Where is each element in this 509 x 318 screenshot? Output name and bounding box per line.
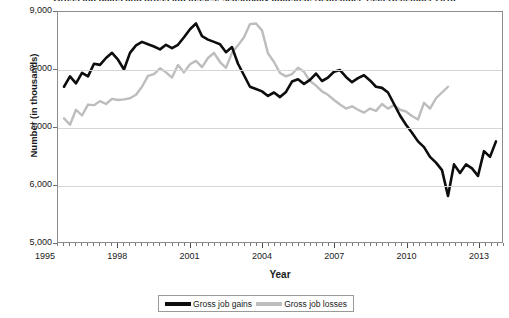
x-axis-major-tick xyxy=(334,243,335,248)
gridline xyxy=(58,186,502,187)
x-axis-minor-tick xyxy=(376,243,377,246)
x-axis-minor-tick xyxy=(346,243,347,246)
x-tick-label: 1995 xyxy=(25,251,65,261)
x-axis-minor-tick xyxy=(214,243,215,246)
x-axis-minor-tick xyxy=(382,243,383,246)
y-tick-label: 6,000 xyxy=(18,179,52,189)
chart-title: Gross job gains and gross job losses, se… xyxy=(0,0,509,1)
x-axis-minor-tick xyxy=(141,243,142,246)
x-axis-minor-tick xyxy=(105,243,106,246)
x-axis-minor-tick xyxy=(93,243,94,246)
x-axis-minor-tick xyxy=(449,243,450,246)
x-axis-minor-tick xyxy=(208,243,209,246)
x-axis-minor-tick xyxy=(395,243,396,246)
x-axis-minor-tick xyxy=(57,243,58,246)
x-tick-label: 2001 xyxy=(170,251,210,261)
chart-legend: Gross job gainsGross job losses xyxy=(158,295,354,312)
x-axis-minor-tick xyxy=(358,243,359,246)
x-axis-minor-tick xyxy=(491,243,492,246)
series-line-gross-job-losses xyxy=(64,24,448,125)
chart-container: Gross job gains and gross job losses, se… xyxy=(0,0,509,318)
x-axis-minor-tick xyxy=(310,243,311,246)
x-axis-minor-tick xyxy=(69,243,70,246)
x-axis-minor-tick xyxy=(244,243,245,246)
series-line-gross-job-gains xyxy=(64,24,496,197)
legend-swatch-icon xyxy=(256,302,282,306)
x-axis-major-tick xyxy=(407,243,408,248)
x-axis-minor-tick xyxy=(172,243,173,246)
x-axis-minor-tick xyxy=(364,243,365,246)
x-axis-minor-tick xyxy=(340,243,341,246)
x-axis-minor-tick xyxy=(250,243,251,246)
x-axis-minor-tick xyxy=(232,243,233,246)
x-axis-minor-tick xyxy=(401,243,402,246)
x-axis-minor-tick xyxy=(425,243,426,246)
y-axis-tick xyxy=(53,11,57,12)
x-axis-minor-tick xyxy=(503,243,504,246)
legend-entry[interactable]: Gross job gains xyxy=(165,299,252,309)
x-axis-title: Year xyxy=(57,269,503,280)
x-axis-ticks xyxy=(57,243,503,248)
y-tick-label: 7,000 xyxy=(18,121,52,131)
x-axis-minor-tick xyxy=(268,243,269,246)
x-axis-minor-tick xyxy=(304,243,305,246)
x-axis-minor-tick xyxy=(111,243,112,246)
series-lines xyxy=(58,12,502,242)
plot-area xyxy=(57,11,503,243)
x-axis-minor-tick xyxy=(461,243,462,246)
x-axis-minor-tick xyxy=(226,243,227,246)
x-axis-minor-tick xyxy=(165,243,166,246)
x-axis-minor-tick xyxy=(485,243,486,246)
x-axis-minor-tick xyxy=(196,243,197,246)
y-axis-tick xyxy=(53,243,57,244)
x-axis-minor-tick xyxy=(135,243,136,246)
x-axis-minor-tick xyxy=(473,243,474,246)
x-axis-minor-tick xyxy=(238,243,239,246)
x-axis-minor-tick xyxy=(298,243,299,246)
y-tick-label: 5,000 xyxy=(18,237,52,247)
legend-label: Gross job gains xyxy=(193,299,252,309)
gridline xyxy=(58,70,502,71)
x-axis-minor-tick xyxy=(87,243,88,246)
x-axis-minor-tick xyxy=(322,243,323,246)
x-axis-minor-tick xyxy=(184,243,185,246)
y-tick-label: 8,000 xyxy=(18,63,52,73)
x-axis-minor-tick xyxy=(352,243,353,246)
x-axis-minor-tick xyxy=(467,243,468,246)
x-axis-major-tick xyxy=(262,243,263,248)
legend-entry[interactable]: Gross job losses xyxy=(256,299,347,309)
y-axis-tick-labels: 9,0008,0007,0006,0005,000 xyxy=(16,0,52,318)
x-axis-minor-tick xyxy=(455,243,456,246)
x-axis-minor-tick xyxy=(280,243,281,246)
x-axis-minor-tick xyxy=(75,243,76,246)
legend-swatch-icon xyxy=(165,302,191,306)
gridline xyxy=(58,128,502,129)
x-axis-major-tick xyxy=(190,243,191,248)
x-axis-minor-tick xyxy=(370,243,371,246)
x-axis-minor-tick xyxy=(388,243,389,246)
x-axis-minor-tick xyxy=(256,243,257,246)
x-axis-minor-tick xyxy=(147,243,148,246)
x-axis-minor-tick xyxy=(497,243,498,246)
y-tick-label: 9,000 xyxy=(18,5,52,15)
x-axis-minor-tick xyxy=(286,243,287,246)
x-axis-minor-tick xyxy=(413,243,414,246)
y-axis-tick xyxy=(53,69,57,70)
x-axis-minor-tick xyxy=(202,243,203,246)
x-tick-label: 2013 xyxy=(459,251,499,261)
y-axis-tick xyxy=(53,127,57,128)
x-axis-minor-tick xyxy=(274,243,275,246)
x-axis-minor-tick xyxy=(178,243,179,246)
x-axis-minor-tick xyxy=(316,243,317,246)
x-axis-minor-tick xyxy=(292,243,293,246)
x-axis-major-tick xyxy=(479,243,480,248)
x-axis-minor-tick xyxy=(419,243,420,246)
x-axis-minor-tick xyxy=(63,243,64,246)
x-axis-minor-tick xyxy=(99,243,100,246)
x-axis-minor-tick xyxy=(220,243,221,246)
x-axis-minor-tick xyxy=(437,243,438,246)
x-tick-label: 1998 xyxy=(97,251,137,261)
y-axis-tick xyxy=(53,185,57,186)
x-axis-minor-tick xyxy=(159,243,160,246)
x-axis-major-tick xyxy=(117,243,118,248)
